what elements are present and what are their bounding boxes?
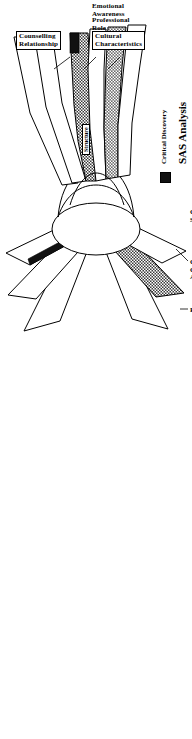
label-cultural-characteristics-advising: Cultural Characteristics Advising	[190, 259, 192, 282]
sas-analysis-graphic	[0, 0, 192, 369]
label-line: Relationship	[19, 40, 58, 48]
label-line: Awareness	[92, 10, 125, 18]
legend-label-critical-discovery: Critical Discovery	[160, 110, 168, 164]
label-line: Role	[92, 24, 106, 32]
label-line: Characteristics	[95, 40, 142, 48]
label-counselling-relationship: Counselling Relationship	[16, 31, 61, 50]
label-line: Role	[190, 306, 192, 314]
label-role: Role	[190, 307, 192, 315]
label-line: Supporting	[190, 216, 192, 224]
legend-swatch-critical-discovery	[160, 172, 171, 183]
label-professional-role: Professional Role	[92, 17, 130, 32]
label-line: Advising	[190, 273, 192, 281]
panel-sas-analysis: Counselling Relationship Cultural Charac…	[0, 0, 192, 369]
label-structure: Structure	[82, 124, 90, 155]
label-consulting-supporting: Consulting Supporting	[190, 209, 192, 224]
label-cultural-characteristics: Cultural Characteristics	[92, 31, 145, 50]
label-emotional-awareness: Emotional Awareness	[92, 3, 125, 18]
panel-title-sas-analysis: SAS Analysis	[176, 102, 189, 164]
